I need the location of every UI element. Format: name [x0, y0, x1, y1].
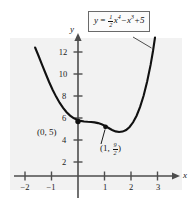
y-tick-label-8: 8	[58, 91, 70, 101]
x-tick-label-1: 1	[98, 182, 112, 192]
point-marker-1-4.5	[103, 124, 108, 129]
y-axis-label: y	[70, 24, 74, 34]
x-tick-label-neg1: −1	[43, 182, 59, 192]
y-tick-label-4: 4	[58, 135, 70, 145]
annotation-label-1-9over2: (1, 92)	[100, 142, 121, 156]
equation-callout-box: y = 12x4−x3+5	[88, 11, 150, 32]
y-axis	[74, 33, 83, 198]
y-tick-label-10: 10	[56, 69, 70, 79]
y-tick-label-12: 12	[56, 47, 70, 57]
x-tick-label-2: 2	[124, 182, 138, 192]
curve-quartic	[35, 38, 155, 133]
annotation-prefix: (1,	[100, 143, 112, 153]
x-axis-label: x	[183, 170, 187, 180]
equation-lhs: y	[94, 15, 98, 25]
x-tick-label-neg2: −2	[17, 182, 33, 192]
y-tick-label-6: 6	[58, 113, 70, 123]
point-marker-0-5	[75, 119, 80, 124]
equation-equals: =	[100, 15, 106, 25]
fraction-one-half: 12	[108, 14, 113, 28]
graph-figure: y x 12 10 8 6 4 2 −2 −1 1 2 3 (0, 5) (1,…	[0, 0, 193, 208]
fraction-denominator: 2	[108, 21, 113, 29]
fraction-nine-halves: 92	[113, 142, 118, 156]
annotation-suffix: )	[118, 143, 121, 153]
x-tick-label-3: 3	[151, 182, 165, 192]
annotation-label-0-5: (0, 5)	[37, 127, 57, 137]
leader-line-equation	[133, 37, 152, 48]
y-tick-label-2: 2	[58, 157, 70, 167]
equation-constant: 5	[140, 15, 145, 25]
fraction-denominator: 2	[113, 149, 118, 157]
x-axis	[14, 172, 180, 181]
